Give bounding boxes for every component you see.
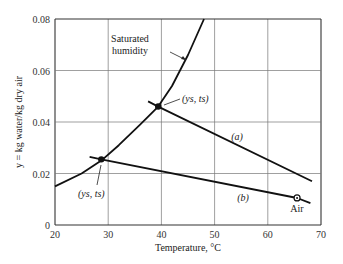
markers — [98, 103, 300, 201]
humidity-chart: 20304050607000.020.040.060.08 Temperatur… — [0, 0, 343, 264]
saturated-label-line1: Saturated — [111, 33, 149, 44]
upper-pointer-arrow — [164, 99, 180, 105]
y-tick-label: 0.02 — [33, 169, 51, 180]
curve-a-line — [148, 101, 312, 181]
curve-a-label: (a) — [231, 131, 243, 143]
axis-ticks: 20304050607000.020.040.060.08 — [33, 14, 327, 240]
saturation-point-dot — [98, 156, 104, 162]
x-tick-label: 60 — [263, 229, 273, 240]
curve-b-label: (b) — [237, 192, 249, 204]
curves — [55, 19, 312, 203]
y-tick-label: 0.04 — [33, 117, 51, 128]
x-tick-label: 30 — [103, 229, 113, 240]
arrowhead-icon — [181, 56, 186, 60]
x-tick-label: 50 — [210, 229, 220, 240]
air-label: Air — [290, 203, 304, 214]
saturation-point-dot — [155, 103, 161, 109]
y-tick-label: 0.08 — [33, 14, 51, 25]
x-tick-label: 70 — [316, 229, 326, 240]
x-axis-label: Temperature, °C — [155, 242, 221, 253]
y-tick-label: 0 — [45, 220, 50, 231]
saturated-label-line2: humidity — [112, 45, 148, 56]
upper-point-label: (ys, ts) — [182, 93, 209, 105]
y-tick-label: 0.06 — [33, 66, 51, 77]
lower-point-label: (ys, ts) — [78, 188, 105, 200]
x-tick-label: 40 — [156, 229, 166, 240]
x-tick-label: 20 — [50, 229, 60, 240]
y-axis-label: y = kg water/kg dry air — [13, 75, 24, 168]
lower-pointer-arrow — [97, 165, 101, 185]
air-point-center — [296, 197, 298, 199]
